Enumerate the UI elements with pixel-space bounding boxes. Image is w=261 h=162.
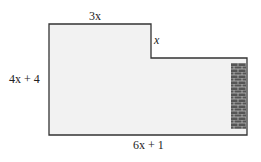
label-top-width: 3x	[89, 9, 101, 24]
l-shaped-region	[49, 24, 247, 135]
label-step-height: x	[154, 33, 159, 48]
brick-wall	[231, 63, 246, 129]
label-bottom-width: 6x + 1	[133, 138, 164, 153]
label-left-height: 4x + 4	[9, 72, 40, 87]
